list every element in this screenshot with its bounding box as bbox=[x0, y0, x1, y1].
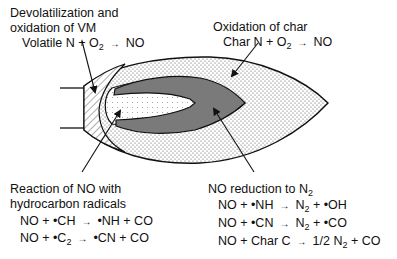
burner-nozzle bbox=[60, 88, 84, 128]
eq-lhs: NO + •C bbox=[20, 231, 66, 245]
reaction-arrow-icon: → bbox=[279, 198, 289, 213]
reaction-arrow-icon: → bbox=[298, 35, 308, 50]
reduction-equation-1: NO + •NH→N2 + •OH bbox=[218, 198, 347, 213]
eq-rhs: NO bbox=[314, 35, 333, 49]
eq-lhs: NO + •CN bbox=[218, 216, 273, 230]
no-reduction-title: NO reduction to N2 bbox=[208, 182, 313, 197]
eq-lhs: NO + •CH bbox=[20, 214, 75, 228]
reduction-equation-3: NO + Char C→1/2 N2 + CO bbox=[218, 234, 381, 249]
reaction-arrow-icon: → bbox=[297, 234, 307, 249]
eq-rhs: NO bbox=[126, 36, 145, 50]
reaction-arrow-icon: → bbox=[279, 216, 289, 231]
devolatilization-title-1: Devolatilization and bbox=[10, 6, 118, 21]
eq-sub: 2 bbox=[99, 42, 104, 52]
eq-lhs: Char N + O bbox=[223, 35, 287, 49]
eq-rhs: + •OH bbox=[309, 198, 346, 212]
eq-rhs: •CN + CO bbox=[93, 231, 148, 245]
eq-sub: 2 bbox=[287, 41, 292, 51]
eq-lhs: NO + •NH bbox=[218, 198, 273, 212]
reaction-arrow-icon: → bbox=[110, 36, 120, 51]
eq-rhs-pre: 1/2 N bbox=[313, 234, 343, 248]
eq-rhs: + CO bbox=[348, 234, 381, 248]
devolatilization-title-2: oxidation of VM bbox=[10, 21, 96, 36]
eq-sub: 2 bbox=[66, 237, 71, 247]
reduction-equation-2: NO + •CN→N2 + •CO bbox=[218, 216, 347, 231]
title-sub: 2 bbox=[308, 188, 313, 198]
eq-rhs: + •CO bbox=[309, 216, 346, 230]
eq-rhs: •NH + CO bbox=[97, 214, 152, 228]
char-oxidation-title: Oxidation of char bbox=[213, 20, 308, 35]
hydrocarbon-equation-2: NO + •C2→•CN + CO bbox=[20, 231, 149, 246]
reaction-arrow-icon: → bbox=[81, 214, 91, 229]
eq-lhs: Volatile N + O bbox=[22, 36, 99, 50]
hydrocarbon-title-1: Reaction of NO with bbox=[10, 182, 121, 197]
devolatilization-equation: Volatile N + O2→NO bbox=[22, 36, 145, 51]
eq-lhs: NO + Char C bbox=[218, 234, 291, 248]
char-oxidation-equation: Char N + O2→NO bbox=[223, 35, 332, 50]
title-text: NO reduction to N bbox=[208, 182, 308, 196]
reaction-arrow-icon: → bbox=[77, 231, 87, 246]
hydrocarbon-equation-1: NO + •CH→•NH + CO bbox=[20, 214, 153, 229]
hydrocarbon-title-2: hydrocarbon radicals bbox=[10, 197, 126, 212]
